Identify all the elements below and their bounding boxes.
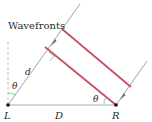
label-D: D [54,110,63,121]
arrow-icon-right [120,93,126,100]
ray-right [116,61,147,105]
wavefront-2 [62,29,131,87]
angle-arc-right [104,97,106,105]
point-L [6,103,10,107]
point-R [114,103,118,107]
angle-arc-left [8,93,15,95]
wavefront-diagram: Wavefronts d θ θ L D R [0,0,152,122]
label-theta-left: θ [12,81,18,91]
label-theta-right: θ [93,94,99,104]
label-d: d [25,67,31,77]
label-L: L [3,110,11,121]
wavefront-1 [45,47,116,105]
label-R: R [111,110,120,121]
label-wavefronts: Wavefronts [8,20,65,31]
arrow-icon-left [51,39,57,46]
